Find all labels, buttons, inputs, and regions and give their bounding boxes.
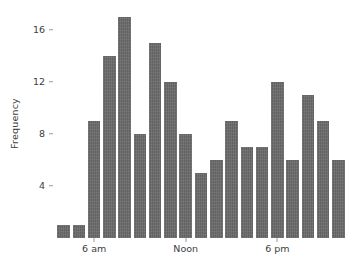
histogram-bar <box>164 82 177 238</box>
histogram-bar <box>286 160 299 238</box>
x-axis-tick-mark <box>94 238 95 242</box>
x-axis-tick-label: 6 pm <box>265 244 289 254</box>
y-axis-tick-mark <box>49 133 53 134</box>
y-axis-tick-label: 16 <box>33 25 45 35</box>
histogram-chart: Frequency 481216 6 amNoon6 pm <box>0 0 353 274</box>
y-axis-title: Frequency <box>6 0 22 274</box>
histogram-bar <box>103 56 116 238</box>
histogram-bar <box>302 95 315 238</box>
y-axis-tick-mark <box>49 185 53 186</box>
histogram-bar <box>57 225 70 238</box>
x-axis-ticks: 6 amNoon6 pm <box>56 238 346 268</box>
histogram-bar <box>73 225 86 238</box>
y-axis-tick: 8 <box>39 129 56 139</box>
histogram-bar <box>256 147 269 238</box>
x-axis-tick-mark <box>185 238 186 242</box>
y-axis-tick-label: 4 <box>39 181 45 191</box>
histogram-bar <box>134 134 147 238</box>
plot-area: 481216 <box>56 10 346 238</box>
y-axis-tick-label: 8 <box>39 129 45 139</box>
y-axis-tick-mark <box>49 29 53 30</box>
bar-series <box>56 10 346 238</box>
x-axis-tick-label: Noon <box>173 244 198 254</box>
y-axis-tick: 12 <box>33 77 56 87</box>
histogram-bar <box>225 121 238 238</box>
y-axis-tick-label: 12 <box>33 77 45 87</box>
histogram-bar <box>118 17 131 238</box>
histogram-bar <box>271 82 284 238</box>
histogram-bar <box>195 173 208 238</box>
histogram-bar <box>241 147 254 238</box>
x-axis-tick-mark <box>277 238 278 242</box>
y-axis-title-label: Frequency <box>9 98 20 149</box>
histogram-bar <box>332 160 345 238</box>
y-axis-tick: 16 <box>33 25 56 35</box>
x-axis-tick-label: 6 am <box>82 244 106 254</box>
histogram-bar <box>149 43 162 238</box>
histogram-bar <box>179 134 192 238</box>
histogram-bar <box>210 160 223 238</box>
y-axis-tick-mark <box>49 81 53 82</box>
histogram-bar <box>317 121 330 238</box>
y-axis-tick: 4 <box>39 181 56 191</box>
histogram-bar <box>88 121 101 238</box>
